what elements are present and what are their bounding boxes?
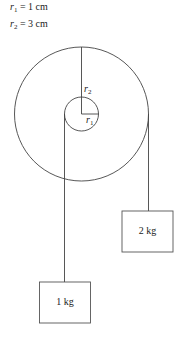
mass-1kg-label: 1 kg (40, 296, 91, 307)
inner-radius-label: r1 (86, 114, 93, 127)
mass-2kg-label: 2 kg (122, 225, 173, 236)
outer-radius-label: r2 (84, 83, 91, 96)
pulley-diagram (0, 0, 187, 337)
r1-sub: 1 (90, 119, 94, 127)
r2-sub: 2 (88, 88, 92, 96)
